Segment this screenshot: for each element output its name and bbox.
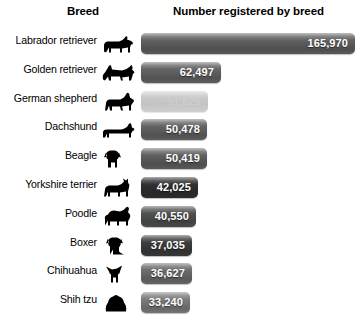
chart-row: Yorkshire terrier42,025 <box>0 174 362 203</box>
bar: 51,625 <box>141 91 208 112</box>
chart-row: Poodle40,550 <box>0 203 362 232</box>
dog-shih-tzu-icon <box>100 289 138 316</box>
bar-value-label: 50,419 <box>166 148 200 169</box>
bar-value-label: 165,970 <box>308 33 348 54</box>
breed-label: German shepherd <box>14 92 97 105</box>
bar: 36,627 <box>141 263 192 284</box>
bar: 50,478 <box>141 119 207 140</box>
breed-label: Labrador retriever <box>15 34 97 47</box>
bar-value-label: 62,497 <box>180 62 214 83</box>
breed-label: Dachshund <box>45 120 97 133</box>
bar-track: 37,035 <box>141 235 192 256</box>
dog-german-shepherd-icon <box>100 88 138 115</box>
column-header-breed: Breed <box>40 5 126 17</box>
bar: 165,970 <box>141 33 355 54</box>
bar-track: 40,550 <box>141 206 196 227</box>
dog-chihuahua-icon <box>100 260 138 287</box>
chart-rows: Labrador retriever165,970Golden retrieve… <box>0 30 362 318</box>
breed-label: Poodle <box>65 207 97 220</box>
chart-row: Beagle50,419 <box>0 145 362 174</box>
bar-value-label: 33,240 <box>149 292 183 313</box>
column-header-number: Number registered by breed <box>141 5 356 17</box>
bar-value-label: 37,035 <box>151 235 185 256</box>
dog-yorkshire-terrier-icon <box>100 174 138 201</box>
bar: 40,550 <box>141 206 196 227</box>
breed-label: Beagle <box>65 149 97 162</box>
breed-label: Shih tzu <box>60 293 97 306</box>
bar-track: 51,625 <box>141 91 208 112</box>
breed-label: Yorkshire terrier <box>25 178 97 191</box>
bar-value-label: 36,627 <box>151 263 185 284</box>
bar-track: 165,970 <box>141 33 355 54</box>
chart-header: Breed Number registered by breed <box>0 5 362 25</box>
bar-track: 36,627 <box>141 263 192 284</box>
chart-row: Shih tzu33,240 <box>0 289 362 318</box>
dog-breed-bar-chart: Breed Number registered by breed Labrado… <box>0 0 362 323</box>
chart-row: Dachshund50,478 <box>0 116 362 145</box>
bar-track: 42,025 <box>141 177 198 198</box>
chart-row: German shepherd51,625 <box>0 88 362 117</box>
chart-row: Chihuahua36,627 <box>0 260 362 289</box>
bar-track: 50,419 <box>141 148 207 169</box>
bar: 42,025 <box>141 177 198 198</box>
breed-label: Golden retriever <box>23 63 97 76</box>
bar-track: 33,240 <box>141 292 190 313</box>
dog-poodle-icon <box>100 203 138 230</box>
dog-labrador-icon <box>100 30 138 57</box>
bar: 62,497 <box>141 62 221 83</box>
dog-golden-retriever-icon <box>100 59 138 86</box>
bar: 50,419 <box>141 148 207 169</box>
bar-value-label: 40,550 <box>155 206 189 227</box>
chart-row: Boxer37,035 <box>0 232 362 261</box>
bar: 33,240 <box>141 292 190 313</box>
bar-value-label: 42,025 <box>157 177 191 198</box>
chart-row: Labrador retriever165,970 <box>0 30 362 59</box>
bar-track: 50,478 <box>141 119 207 140</box>
breed-label: Boxer <box>70 236 97 249</box>
bar-track: 62,497 <box>141 62 221 83</box>
dog-beagle-icon <box>100 145 138 172</box>
chart-row: Golden retriever62,497 <box>0 59 362 88</box>
dog-dachshund-icon <box>100 116 138 143</box>
bar-value-label: 50,478 <box>166 119 200 140</box>
breed-label: Chihuahua <box>47 264 97 277</box>
dog-boxer-icon <box>100 232 138 259</box>
bar: 37,035 <box>141 235 192 256</box>
bar-value-label: 51,625 <box>167 91 201 112</box>
